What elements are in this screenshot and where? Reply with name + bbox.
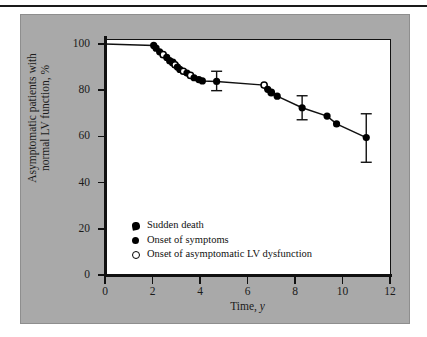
legend-label-onset-lv-dysfunction: Onset of asymptomatic LV dysfunction: [147, 247, 312, 262]
filled-circle-icon: [130, 233, 143, 246]
legend-label-sudden-death: Sudden death: [147, 218, 204, 233]
filled-circle-icon: [299, 104, 306, 111]
filled-circle-icon: [274, 93, 281, 100]
open-circle-icon: [130, 248, 143, 261]
filled-circle-icon: [199, 77, 206, 84]
half-filled-circle-icon: [130, 219, 143, 232]
chart-plot-area: [0, 0, 427, 337]
filled-circle-icon: [363, 134, 370, 141]
legend-label-onset-symptoms: Onset of symptoms: [147, 233, 229, 248]
error-bars-group: [211, 71, 372, 162]
legend-item-onset-lv-dysfunction: Onset of asymptomatic LV dysfunction: [130, 247, 312, 262]
filled-circle-icon: [213, 78, 220, 85]
filled-circle-icon: [333, 120, 340, 127]
legend-item-onset-symptoms: Onset of symptoms: [130, 233, 312, 248]
data-point-markers: [150, 42, 370, 141]
survival-curve-line: [105, 44, 366, 138]
legend-item-sudden-death: Sudden death: [130, 218, 312, 233]
chart-legend: Sudden death Onset of symptoms Onset of …: [130, 218, 312, 262]
filled-circle-icon: [323, 112, 330, 119]
